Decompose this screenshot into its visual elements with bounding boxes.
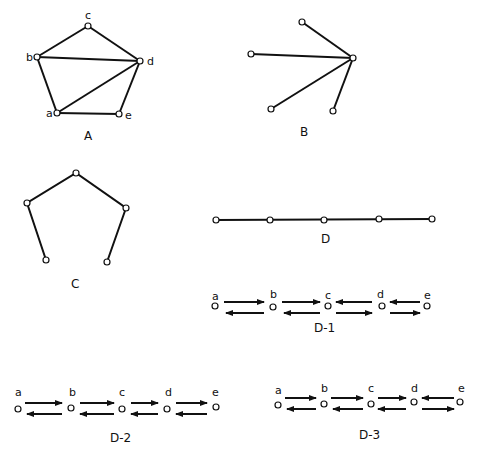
d1-label-b: b [270, 288, 277, 301]
node-label-e: e [125, 109, 132, 122]
node-label-d: d [147, 55, 154, 68]
d3-label-d: d [411, 382, 418, 395]
graph-d2: a b c d e D-2 [15, 386, 219, 445]
d2-label-e: e [212, 386, 219, 399]
d3-label-b: b [321, 382, 328, 395]
d1-label-d: d [377, 288, 384, 301]
graph-b [251, 22, 353, 111]
d3-label-a: a [275, 384, 282, 397]
d1-label-c: c [325, 289, 331, 302]
caption-b: B [300, 125, 308, 139]
caption-d1: D-1 [314, 321, 335, 335]
caption-c: C [71, 277, 79, 291]
d1-label-a: a [212, 290, 219, 303]
graph-a [37, 26, 140, 114]
graph-d1: a b c d e D-1 [212, 288, 431, 335]
caption-a: A [84, 129, 93, 143]
caption-d: D [321, 232, 330, 246]
node-label-c: c [85, 9, 91, 22]
d3-label-e: e [458, 382, 465, 395]
graph-d3: a b c d e D-3 [275, 382, 465, 442]
d1-label-e: e [424, 289, 431, 302]
d2-label-b: b [69, 386, 76, 399]
graph-c [27, 173, 126, 262]
d2-label-d: d [165, 386, 172, 399]
d2-label-a: a [15, 386, 22, 399]
node-label-a: a [46, 107, 53, 120]
caption-d2: D-2 [110, 431, 131, 445]
caption-d3: D-3 [359, 428, 380, 442]
graph-c-nodes [24, 170, 129, 265]
d2-label-c: c [119, 386, 125, 399]
graph-figure: a b c d e A B C D a b c d e [0, 0, 483, 455]
node-label-b: b [26, 51, 33, 64]
d3-label-c: c [368, 382, 374, 395]
